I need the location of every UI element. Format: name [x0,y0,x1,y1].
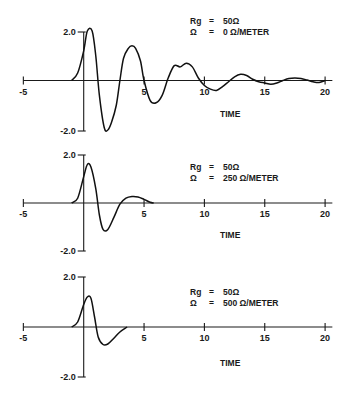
rg-equals: = [209,16,214,26]
rg-label: Rg [190,16,201,26]
waveform-curve [72,28,325,131]
x-tick-label: 10 [199,209,209,219]
rg-value: 50Ω [223,287,239,297]
rg-equals: = [209,287,214,297]
y-tick-label-bottom: -2.0 [60,372,76,382]
rg-label: Rg [190,287,201,297]
y-tick-label-top: 2.0 [63,27,76,37]
x-tick-label: 20 [320,333,330,343]
omega-label: Ω [190,173,197,183]
x-tick-label: 15 [260,87,270,97]
omega-value: 0 Ω/METER [223,27,269,37]
y-tick-label-top: 2.0 [63,150,76,160]
x-tick-label: 10 [199,333,209,343]
x-tick-label: 15 [260,333,270,343]
omega-label: Ω [190,298,197,308]
x-tick-label: 20 [320,87,330,97]
x-tick-label: -5 [19,333,27,343]
x-axis-label: TIME [220,230,241,240]
chart-panel-3: -551015202.0-2.0Rg=50ΩΩ=500 Ω/METERTIME [19,272,332,382]
omega-equals: = [209,173,214,183]
omega-equals: = [209,27,214,37]
rg-value: 50Ω [223,162,239,172]
x-tick-label: 5 [142,209,147,219]
chart-panel-2: -551015202.0-2.0Rg=50ΩΩ=250 Ω/METERTIME [19,150,332,256]
chart-panel-1: -551015202.0-2.0Rg=50ΩΩ=0 Ω/METERTIME [19,16,332,136]
x-tick-label: 20 [320,209,330,219]
x-tick-label: -5 [19,87,27,97]
rg-equals: = [209,162,214,172]
rg-value: 50Ω [223,16,239,26]
y-tick-label-top: 2.0 [63,272,76,282]
waveform-figure: -551015202.0-2.0Rg=50ΩΩ=0 Ω/METERTIME-55… [0,0,353,402]
y-tick-label-bottom: -2.0 [60,246,76,256]
waveform-curve [72,296,128,345]
y-tick-label-bottom: -2.0 [60,126,76,136]
omega-equals: = [209,298,214,308]
x-axis-label: TIME [220,109,241,119]
omega-value: 500 Ω/METER [223,298,278,308]
x-axis-label: TIME [220,358,241,368]
x-tick-label: 15 [260,209,270,219]
rg-label: Rg [190,162,201,172]
x-tick-label: 5 [142,333,147,343]
x-tick-label: -5 [19,209,27,219]
omega-value: 250 Ω/METER [223,173,278,183]
omega-label: Ω [190,27,197,37]
